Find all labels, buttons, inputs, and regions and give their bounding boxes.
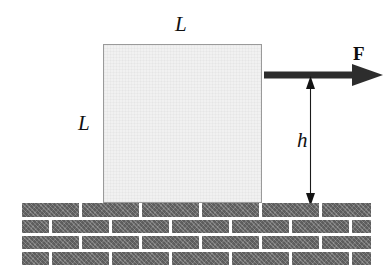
physics-diagram: L L h F bbox=[0, 0, 391, 273]
brick bbox=[232, 252, 289, 265]
brick bbox=[172, 252, 229, 265]
brick-wall bbox=[22, 203, 371, 267]
brick bbox=[82, 236, 139, 249]
block-texture bbox=[104, 45, 261, 202]
brick bbox=[22, 220, 49, 233]
brick bbox=[52, 220, 109, 233]
brick bbox=[262, 203, 319, 217]
brick bbox=[322, 236, 371, 249]
brick bbox=[22, 236, 79, 249]
label-F: F bbox=[353, 44, 365, 63]
label-L-left: L bbox=[78, 113, 90, 134]
label-L-top: L bbox=[175, 14, 187, 35]
brick bbox=[202, 236, 259, 249]
brick bbox=[352, 220, 371, 233]
label-h: h bbox=[297, 130, 308, 151]
brick bbox=[22, 203, 79, 217]
brick bbox=[322, 203, 371, 217]
brick bbox=[292, 220, 349, 233]
brick bbox=[112, 252, 169, 265]
block-square bbox=[103, 44, 262, 203]
force-arrow-icon bbox=[264, 64, 383, 86]
brick bbox=[262, 236, 319, 249]
brick bbox=[172, 220, 229, 233]
brick bbox=[142, 203, 199, 217]
brick bbox=[232, 220, 289, 233]
brick bbox=[352, 252, 371, 265]
brick bbox=[142, 236, 199, 249]
brick bbox=[52, 252, 109, 265]
brick bbox=[202, 203, 259, 217]
brick bbox=[292, 252, 349, 265]
brick bbox=[112, 220, 169, 233]
brick bbox=[22, 252, 49, 265]
brick bbox=[82, 203, 139, 217]
